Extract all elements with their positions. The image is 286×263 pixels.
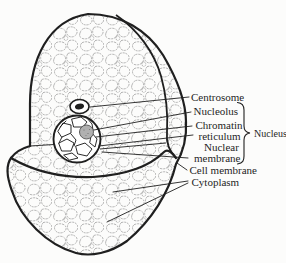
cytoplasm-label: Cytoplasm bbox=[192, 176, 240, 188]
centrosome-label: Centrosome bbox=[191, 91, 244, 103]
cell-diagram-canvas: Centrosome Nucleolus Chromatin reticulum… bbox=[0, 0, 286, 263]
cell-membrane-leader-line bbox=[177, 163, 187, 170]
nucleolus-shape bbox=[80, 125, 94, 139]
nucleolus-label: Nucleolus bbox=[194, 105, 239, 117]
cell-diagram-figure: Centrosome Nucleolus Chromatin reticulum… bbox=[0, 0, 286, 263]
cell-membrane-label: Cell membrane bbox=[190, 164, 258, 176]
nuclear-membrane-label-line2: membrane bbox=[194, 152, 241, 164]
centrosome-shape bbox=[70, 100, 89, 114]
nucleus-label: Nucleus bbox=[254, 128, 286, 139]
